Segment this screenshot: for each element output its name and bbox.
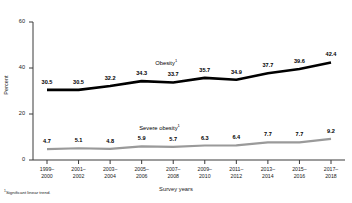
data-point-label: 6.4 [223, 134, 249, 140]
x-tick-label-line: 2006 [125, 173, 159, 180]
x-tick-label-line: 2012 [219, 173, 253, 180]
data-point-label: 39.6 [286, 58, 312, 64]
data-point-label: 42.4 [318, 51, 344, 57]
data-point-label: 5.9 [129, 135, 155, 141]
x-tick-label-line: 1999– [30, 166, 64, 173]
data-point-label: 6.3 [192, 135, 218, 141]
x-tick-label: 2011–2012 [219, 166, 253, 180]
x-tick-label-line: 2017– [314, 166, 348, 173]
series-label-severe-obesity: Severe obesity1 [139, 125, 180, 131]
x-tick-label-line: 2007– [156, 166, 190, 173]
x-tick-label: 2007–2008 [156, 166, 190, 180]
data-point-label: 4.7 [34, 138, 60, 144]
x-tick-label: 2001–2002 [62, 166, 96, 180]
data-point-label: 34.3 [129, 70, 155, 76]
data-point-label: 4.8 [97, 138, 123, 144]
data-point-label: 30.5 [66, 79, 92, 85]
x-tick-label-line: 2000 [30, 173, 64, 180]
x-tick-label: 2009–2010 [188, 166, 222, 180]
x-axis-title: Survey years [0, 186, 352, 192]
x-tick-label-line: 2005– [125, 166, 159, 173]
x-tick-label-line: 2014 [251, 173, 285, 180]
x-tick-label: 1999–2000 [30, 166, 64, 180]
series-label-text: Severe obesity [139, 125, 177, 131]
data-point-label: 5.1 [66, 137, 92, 143]
data-point-label: 7.7 [255, 131, 281, 137]
chart-footnote: 1Significant linear trend. [4, 190, 51, 195]
x-tick-label: 2005–2006 [125, 166, 159, 180]
series-line-obesity [47, 62, 331, 89]
x-tick-label-line: 2008 [156, 173, 190, 180]
y-tick-marks [29, 22, 33, 160]
data-point-label: 32.2 [97, 75, 123, 81]
series-label-superscript: 1 [175, 59, 177, 64]
data-point-label: 5.7 [160, 136, 186, 142]
x-tick-label-line: 2004 [93, 173, 127, 180]
x-tick-label-line: 2003– [93, 166, 127, 173]
data-point-label: 9.2 [318, 128, 344, 134]
x-tick-label-line: 2015– [282, 166, 316, 173]
x-tick-label-line: 2013– [251, 166, 285, 173]
x-tick-label: 2013–2014 [251, 166, 285, 180]
series-label-obesity: Obesity1 [155, 60, 177, 66]
data-point-label: 33.7 [160, 71, 186, 77]
data-point-label: 30.5 [34, 79, 60, 85]
x-tick-label-line: 2002 [62, 173, 96, 180]
series-label-text: Obesity [155, 60, 175, 66]
x-tick-label: 2015–2016 [282, 166, 316, 180]
data-point-label: 37.7 [255, 62, 281, 68]
x-tick-marks [47, 160, 331, 164]
data-point-label: 35.7 [192, 67, 218, 73]
x-tick-label: 2003–2004 [93, 166, 127, 180]
footnote-text: Significant linear trend. [6, 190, 51, 195]
x-tick-label-line: 2009– [188, 166, 222, 173]
data-point-label: 7.7 [286, 131, 312, 137]
x-tick-label-line: 2001– [62, 166, 96, 173]
x-tick-label-line: 2016 [282, 173, 316, 180]
data-point-label: 34.9 [223, 69, 249, 75]
x-tick-label: 2017–2018 [314, 166, 348, 180]
series-label-superscript: 1 [178, 123, 180, 128]
x-tick-label-line: 2010 [188, 173, 222, 180]
x-tick-label-line: 2011– [219, 166, 253, 173]
obesity-trend-chart: Percent 6040200 30.530.532.234.333.735.7… [0, 0, 352, 203]
x-tick-label-line: 2018 [314, 173, 348, 180]
